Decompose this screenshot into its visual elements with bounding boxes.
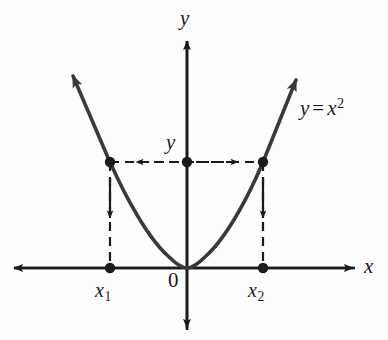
y-value-label: y [166, 132, 175, 153]
x2-label-base: x [248, 279, 257, 301]
y-axis-label: y [180, 8, 189, 29]
point-x2 [258, 263, 268, 273]
diagram-canvas [0, 0, 388, 340]
parabola-left-arm [73, 76, 112, 167]
point-y-value [182, 157, 192, 167]
x2-label-subscript: 2 [257, 289, 264, 304]
parabola-right-arm [261, 80, 296, 167]
x1-label: x1 [95, 280, 111, 303]
x2-label: x2 [248, 280, 264, 303]
point-curve-left [105, 157, 115, 167]
origin-label: 0 [168, 270, 179, 291]
curve-equation-equals: = [309, 96, 327, 120]
curve-equation-label: y=x2 [300, 96, 344, 119]
curve-equation-exponent: 2 [337, 95, 345, 111]
x-axis-label: x [364, 256, 373, 277]
point-x1 [105, 263, 115, 273]
x1-label-subscript: 1 [104, 289, 111, 304]
curve-equation-lhs: y [300, 96, 309, 120]
point-curve-right [258, 157, 268, 167]
parabola-diagram: y x 0 y x1 x2 y=x2 [0, 0, 388, 340]
x1-label-base: x [95, 279, 104, 301]
curve-equation-rhs: x [327, 96, 336, 120]
